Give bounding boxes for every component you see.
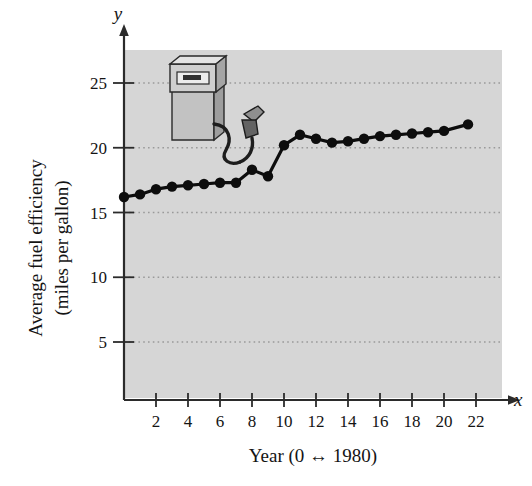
data-point-15 xyxy=(359,134,369,144)
data-point-10 xyxy=(279,140,289,150)
x-tick-label-18: 18 xyxy=(404,412,421,431)
data-point-9 xyxy=(263,171,273,181)
x-tick-label-4: 4 xyxy=(184,412,193,431)
data-point-8 xyxy=(247,165,257,175)
x-tick-label-20: 20 xyxy=(436,412,453,431)
data-point-5 xyxy=(199,179,209,189)
fuel-efficiency-chart-figure: 246810121416182022 510152025 x y Year (0… xyxy=(0,0,532,486)
y-tick-label-10: 10 xyxy=(90,268,107,287)
data-point-16 xyxy=(375,131,385,141)
pump-display-readout xyxy=(183,75,201,80)
data-point-0 xyxy=(119,192,129,202)
y-axis-variable-label: y xyxy=(112,3,123,24)
data-point-14 xyxy=(343,136,353,146)
data-point-4 xyxy=(183,180,193,190)
x-tick-label-10: 10 xyxy=(276,412,293,431)
data-point-17 xyxy=(391,130,401,140)
data-point-6 xyxy=(215,178,225,188)
x-tick-label-16: 16 xyxy=(372,412,389,431)
x-tick-label-8: 8 xyxy=(248,412,257,431)
data-point-13 xyxy=(327,137,337,147)
y-axis-title-line1: Average fuel efficiency xyxy=(25,159,46,337)
x-axis-ticks-group: 246810121416182022 xyxy=(152,393,485,431)
y-tick-label-25: 25 xyxy=(90,74,107,93)
y-tick-label-20: 20 xyxy=(90,139,107,158)
x-axis-variable-label: x xyxy=(513,389,523,410)
chart-svg: 246810121416182022 510152025 x y Year (0… xyxy=(0,0,532,486)
x-tick-label-14: 14 xyxy=(340,412,358,431)
y-axis-title: Average fuel efficiency (miles per gallo… xyxy=(25,159,73,337)
data-point-2 xyxy=(151,184,161,194)
x-tick-label-2: 2 xyxy=(152,412,161,431)
data-point-12 xyxy=(311,134,321,144)
data-point-20 xyxy=(439,126,449,136)
data-point-21.5 xyxy=(463,119,473,129)
x-tick-label-6: 6 xyxy=(216,412,225,431)
data-point-19 xyxy=(423,127,433,137)
data-point-3 xyxy=(167,181,177,191)
x-tick-label-12: 12 xyxy=(308,412,325,431)
y-axis-arrowhead xyxy=(119,24,129,36)
data-point-1 xyxy=(135,189,145,199)
data-point-11 xyxy=(295,130,305,140)
y-tick-label-15: 15 xyxy=(90,204,107,223)
x-tick-label-22: 22 xyxy=(468,412,485,431)
x-axis-title: Year (0 ↔ 1980) xyxy=(249,445,377,467)
data-point-18 xyxy=(407,128,417,138)
data-point-7 xyxy=(231,178,241,188)
y-axis-title-line2: (miles per gallon) xyxy=(51,180,73,315)
y-tick-label-5: 5 xyxy=(99,333,108,352)
